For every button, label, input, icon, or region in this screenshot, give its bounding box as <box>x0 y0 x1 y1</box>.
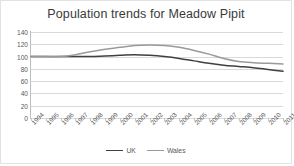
x-axis-labels: 1994199519961997199819992000200120022003… <box>31 121 283 147</box>
series-lines <box>31 32 283 118</box>
plot-area <box>31 32 283 118</box>
y-axis-tick-label: 60 <box>2 78 28 85</box>
y-axis-labels: 020406080100120140 <box>1 32 28 118</box>
legend-label: UK <box>126 147 135 154</box>
legend-line-icon <box>147 150 164 151</box>
legend-label: Wales <box>167 147 186 154</box>
legend-item-wales[interactable]: Wales <box>147 147 186 154</box>
y-axis-tick-label: 40 <box>2 90 28 97</box>
chart-title: Population trends for Meadow Pipit <box>1 7 291 21</box>
y-axis-tick-label: 100 <box>2 53 28 60</box>
y-axis-tick-label: 120 <box>2 41 28 48</box>
series-line-uk <box>31 55 283 72</box>
y-axis-tick-label: 20 <box>2 102 28 109</box>
series-line-wales <box>31 45 283 64</box>
chart-legend: UKWales <box>1 147 291 154</box>
chart-container: Population trends for Meadow Pipit 02040… <box>0 0 292 164</box>
legend-line-icon <box>106 150 123 151</box>
legend-item-uk[interactable]: UK <box>106 147 135 154</box>
x-axis-tick-label: 2011 <box>282 111 294 126</box>
y-axis-tick-label: 0 <box>2 115 28 122</box>
y-axis-tick-label: 140 <box>2 29 28 36</box>
y-axis-tick-label: 80 <box>2 65 28 72</box>
